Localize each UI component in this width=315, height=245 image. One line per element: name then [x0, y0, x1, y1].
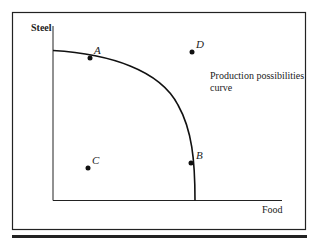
point-b	[189, 161, 194, 166]
point-a-label: A	[93, 44, 101, 56]
production-possibilities-curve	[53, 51, 195, 201]
bottom-rule	[12, 235, 307, 238]
curve-label-line1: Production possibilities	[210, 70, 304, 81]
ppc-diagram: Steel Food A B C D Production possibilit…	[0, 0, 315, 245]
x-axis-label: Food	[262, 204, 283, 215]
point-b-label: B	[196, 149, 203, 161]
point-d-label: D	[195, 38, 204, 50]
point-a	[88, 56, 93, 61]
point-c	[86, 166, 91, 171]
figure-frame	[13, 13, 306, 230]
curve-label-line2: curve	[210, 82, 233, 93]
point-d	[190, 50, 195, 55]
y-axis-label: Steel	[31, 22, 52, 33]
point-c-label: C	[92, 154, 100, 166]
